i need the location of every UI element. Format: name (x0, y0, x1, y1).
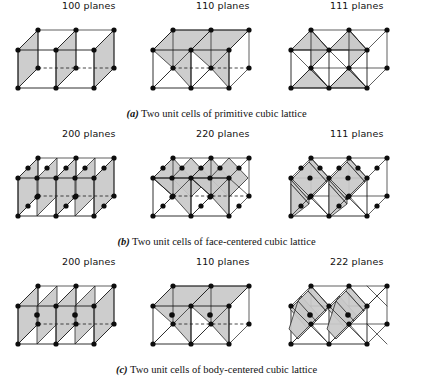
caption-b-text: Two unit cells of face-centered cubic la… (132, 236, 316, 247)
cell-primitive-111 (281, 15, 421, 105)
caption-c-label: (c) (116, 364, 128, 375)
planes-group (153, 30, 249, 88)
cell-primitive-110 (143, 15, 275, 105)
caption-row-c: (c) Two unit cells of body-centered cubi… (0, 361, 433, 375)
header-a-0: 100 planes (62, 0, 115, 11)
diagram-bcc-200 (8, 271, 138, 361)
cell-fcc-220 (143, 143, 275, 233)
row-a-cells (0, 15, 433, 105)
diagram-bcc-222 (281, 271, 423, 361)
row-b-cells (0, 143, 433, 233)
cell-primitive-100 (8, 15, 138, 105)
row-a-headers: 100 planes 110 planes 111 planes (0, 0, 433, 15)
header-c-1: 110 planes (196, 256, 249, 267)
caption-b-label: (b) (117, 236, 129, 247)
diagram-fcc-111 (281, 143, 421, 233)
diagram-fcc-220 (143, 143, 275, 233)
row-face-centered-cubic: 200 planes 220 planes 111 planes (0, 128, 433, 256)
diagram-primitive-110 (143, 15, 275, 105)
caption-c-text: Two unit cells of body-centered cubic la… (130, 364, 317, 375)
row-primitive-cubic: 100 planes 110 planes 111 planes (0, 0, 433, 128)
diagram-fcc-200 (8, 143, 138, 233)
header-c-0: 200 planes (62, 256, 115, 267)
header-a-1: 110 planes (196, 0, 249, 11)
row-c-headers: 200 planes 110 planes 222 planes (0, 256, 433, 271)
caption-row-b: (b) Two unit cells of face-centered cubi… (0, 233, 433, 247)
diagram-primitive-111 (281, 15, 421, 105)
row-body-centered-cubic: 200 planes 110 planes 222 planes (0, 256, 433, 386)
row-c-cells (0, 271, 433, 361)
lattice-planes-figure: 100 planes 110 planes 111 planes (0, 0, 433, 386)
cell-fcc-200 (8, 143, 138, 233)
cell-bcc-110 (143, 271, 275, 361)
header-b-1: 220 planes (196, 128, 249, 139)
header-b-2: 111 planes (330, 128, 383, 139)
row-b-headers: 200 planes 220 planes 111 planes (0, 128, 433, 143)
header-b-0: 200 planes (62, 128, 115, 139)
diagram-bcc-110 (143, 271, 275, 361)
header-a-2: 111 planes (330, 0, 383, 11)
cell-fcc-111 (281, 143, 421, 233)
cell-bcc-222 (281, 271, 423, 361)
diagram-primitive-100 (8, 15, 138, 105)
planes-group (18, 30, 114, 88)
cell-bcc-200 (8, 271, 138, 361)
planes-group (153, 286, 249, 344)
caption-row-a: (a) Two unit cells of primitive cubic la… (0, 105, 433, 119)
caption-a-text: Two unit cells of primitive cubic lattic… (141, 108, 306, 119)
caption-a-label: (a) (126, 108, 138, 119)
planes-group (18, 286, 114, 344)
header-c-2: 222 planes (330, 256, 383, 267)
